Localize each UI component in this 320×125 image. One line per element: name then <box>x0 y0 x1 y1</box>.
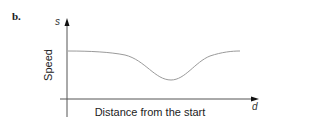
y-variable-label: s <box>55 16 60 27</box>
y-axis-label: Speed <box>42 49 54 81</box>
y-axis-arrow-icon <box>65 18 70 26</box>
speed-curve <box>68 51 240 80</box>
x-axis-label: Distance from the start <box>95 106 206 118</box>
x-variable-label: d <box>252 101 258 112</box>
